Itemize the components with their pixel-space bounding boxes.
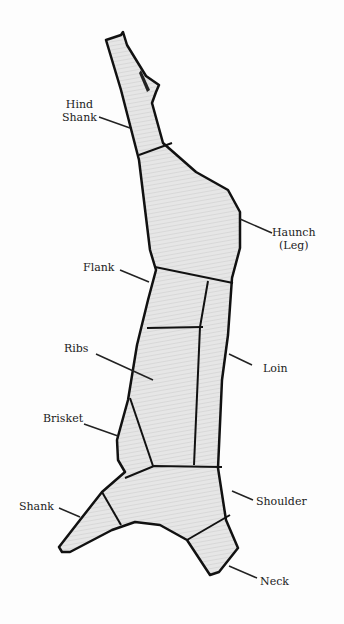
label-line: Haunch <box>272 226 316 239</box>
label-hind-shank: Hind Shank <box>62 98 97 124</box>
label-shoulder: Shoulder <box>256 495 307 508</box>
label-shank: Shank <box>19 500 54 513</box>
label-loin: Loin <box>263 362 288 375</box>
label-line: (Leg) <box>272 239 316 252</box>
label-line: Shank <box>62 111 97 124</box>
label-flank: Flank <box>83 261 114 274</box>
label-haunch: Haunch (Leg) <box>272 226 316 252</box>
label-neck: Neck <box>260 575 289 588</box>
label-brisket: Brisket <box>43 412 83 425</box>
label-line: Hind <box>62 98 97 111</box>
label-ribs: Ribs <box>64 342 89 355</box>
carcass-diagram <box>0 0 344 624</box>
